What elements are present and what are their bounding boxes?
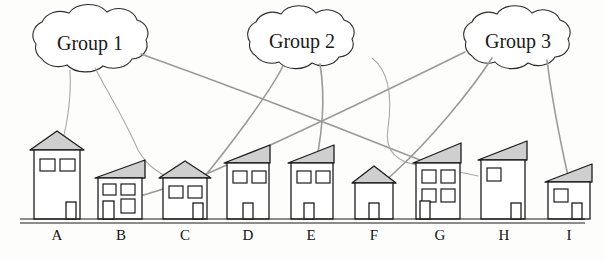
house-label-d: D xyxy=(243,227,254,243)
house-h[interactable] xyxy=(478,141,527,219)
house-label-e: E xyxy=(306,227,315,243)
door-icon xyxy=(103,201,114,219)
house-label-f: F xyxy=(370,227,378,243)
house-d[interactable] xyxy=(224,145,270,219)
cloud-label-group-1: Group 1 xyxy=(57,32,123,55)
roof-icon xyxy=(30,131,84,150)
house-label-h: H xyxy=(499,227,510,243)
roof-icon xyxy=(352,166,396,183)
cloud-label-group-3: Group 3 xyxy=(485,30,551,53)
house-f[interactable] xyxy=(352,166,396,219)
roof-icon xyxy=(413,143,461,163)
house-label-c: C xyxy=(180,227,190,243)
window-icon xyxy=(297,171,311,183)
window-icon xyxy=(121,184,135,195)
window-icon xyxy=(169,186,183,198)
cloud-group-1[interactable]: Group 1 xyxy=(33,5,148,72)
door-icon xyxy=(304,203,314,219)
window-icon xyxy=(441,189,455,202)
window-icon xyxy=(40,159,55,171)
roof-icon xyxy=(478,141,527,160)
door-icon xyxy=(66,202,76,219)
house-labels: A B C D E F G H I xyxy=(52,227,572,243)
door-icon xyxy=(193,203,203,219)
house-e[interactable] xyxy=(288,145,334,219)
roof-icon xyxy=(288,145,334,163)
house-label-a: A xyxy=(52,227,63,243)
house-i[interactable] xyxy=(545,164,592,219)
roof-icon xyxy=(545,164,592,182)
window-icon xyxy=(121,199,135,213)
roof-icon xyxy=(95,160,145,178)
window-icon xyxy=(554,189,568,202)
window-icon xyxy=(316,171,330,183)
house-label-i: I xyxy=(567,227,572,243)
house-label-g: G xyxy=(435,227,446,243)
window-icon xyxy=(188,186,202,198)
door-icon xyxy=(572,203,582,219)
door-icon xyxy=(369,203,379,219)
window-icon xyxy=(441,170,455,183)
house-c[interactable] xyxy=(159,161,211,219)
door-icon xyxy=(511,203,521,219)
house-a[interactable] xyxy=(30,131,84,219)
window-icon xyxy=(422,170,436,183)
cloud-group-2[interactable]: Group 2 xyxy=(248,6,354,69)
cloud-label-group-2: Group 2 xyxy=(269,30,335,53)
window-icon xyxy=(487,168,501,181)
window-icon xyxy=(60,159,75,171)
window-icon xyxy=(233,171,247,183)
roof-icon xyxy=(224,145,270,163)
window-icon xyxy=(422,189,436,202)
house-g[interactable] xyxy=(413,143,461,219)
cloud-group-3[interactable]: Group 3 xyxy=(464,6,570,69)
window-icon xyxy=(103,184,116,195)
diagram-canvas: Group 1 Group 2 Group 3 xyxy=(0,0,605,260)
window-icon xyxy=(252,171,266,183)
door-icon xyxy=(243,203,253,219)
door-icon xyxy=(420,201,430,219)
house-label-b: B xyxy=(116,227,126,243)
house-b[interactable] xyxy=(95,160,145,219)
roof-icon xyxy=(159,161,211,178)
